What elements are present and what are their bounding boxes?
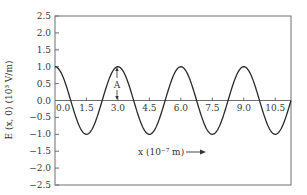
y-tick-label: 0.0 [37, 96, 52, 106]
x-tick-label: 10.5 [265, 103, 285, 113]
x-axis-ticks: 0.01.53.04.56.07.59.010.5 [56, 98, 286, 113]
y-tick-label: −2.0 [29, 163, 51, 173]
x-tick-label: 6.0 [174, 103, 189, 113]
y-tick-label: 0.5 [37, 79, 52, 89]
x-tick-label: 9.0 [237, 103, 252, 113]
x-tick-label: 7.5 [205, 103, 220, 113]
x-axis-title: x (10⁻⁷ m) [138, 147, 184, 157]
y-tick-label: 2.0 [37, 28, 52, 38]
y-tick-label: −1.5 [29, 146, 51, 156]
chart: 2.52.01.51.00.50.0−0.5−1.0−1.5−2.0−2.5 0… [0, 0, 307, 195]
y-tick-label: −0.5 [29, 112, 51, 122]
y-tick-label: 1.5 [37, 45, 52, 55]
x-tick-label: 1.5 [79, 103, 94, 113]
amplitude-label: A [113, 80, 121, 90]
x-tick-label: 3.0 [111, 103, 126, 113]
arrow-right-icon [200, 150, 206, 155]
y-tick-label: −2.5 [29, 180, 51, 190]
amplitude-annotation: A [113, 67, 121, 100]
x-tick-label: 0.0 [56, 103, 71, 113]
y-axis-title: E (x, 0) (10³ V/m) [4, 61, 14, 140]
x-tick-label: 4.5 [142, 103, 157, 113]
y-tick-label: 2.5 [37, 11, 52, 21]
y-tick-label: 1.0 [37, 62, 52, 72]
y-tick-label: −1.0 [29, 129, 51, 139]
